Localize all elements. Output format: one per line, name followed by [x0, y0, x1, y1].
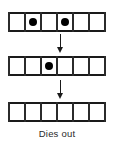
automaton-cell-dead[interactable] — [74, 14, 88, 30]
arrow-down-icon-head — [57, 47, 63, 53]
live-cell-dot-icon — [45, 62, 53, 70]
live-cell-dot-icon — [61, 18, 69, 26]
live-cell-dot-icon — [29, 18, 37, 26]
automaton-cell-dead[interactable] — [90, 104, 104, 120]
cell-divider — [104, 56, 106, 76]
automaton-cell-dead[interactable] — [74, 58, 88, 74]
automaton-cell-alive[interactable] — [26, 14, 40, 30]
automaton-cell-dead[interactable] — [10, 14, 24, 30]
transition-arrow-1 — [56, 34, 65, 54]
cell-divider — [104, 12, 106, 32]
automaton-row-generation-1 — [8, 12, 106, 32]
automaton-row-generation-2 — [8, 56, 106, 76]
automaton-cell-dead[interactable] — [26, 104, 40, 120]
automaton-cell-dead[interactable] — [10, 58, 24, 74]
automaton-cell-dead[interactable] — [90, 14, 104, 30]
automaton-cell-dead[interactable] — [58, 58, 72, 74]
automaton-cell-alive[interactable] — [42, 58, 56, 74]
arrow-down-icon-head — [57, 93, 63, 99]
automaton-cell-dead[interactable] — [74, 104, 88, 120]
automaton-cell-alive[interactable] — [58, 14, 72, 30]
cell-divider — [104, 102, 106, 122]
cellular-automaton-figure: Dies out — [0, 0, 114, 145]
automaton-row-generation-3 — [8, 102, 106, 122]
automaton-cell-dead[interactable] — [90, 58, 104, 74]
automaton-cell-dead[interactable] — [42, 104, 56, 120]
figure-caption: Dies out — [0, 128, 114, 139]
automaton-cell-dead[interactable] — [10, 104, 24, 120]
automaton-cell-dead[interactable] — [58, 104, 72, 120]
transition-arrow-2 — [56, 80, 65, 100]
automaton-cell-dead[interactable] — [42, 14, 56, 30]
automaton-cell-dead[interactable] — [26, 58, 40, 74]
